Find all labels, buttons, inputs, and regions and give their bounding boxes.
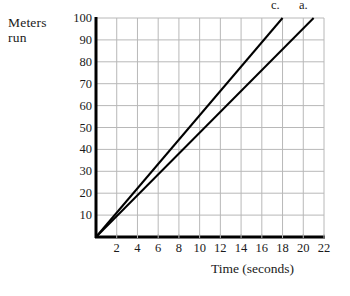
- series-label-a: a.: [292, 0, 314, 12]
- x-axis-title: Time (seconds): [160, 261, 345, 277]
- series-label-c: c.: [264, 0, 286, 12]
- chart-container: Meters run 102030405060708090100 c.a. 24…: [0, 0, 350, 296]
- x-axis-tick-labels: 246810121416182022: [0, 241, 350, 259]
- horizontal-gridlines: [96, 18, 324, 215]
- x-tick-label: 22: [312, 241, 336, 255]
